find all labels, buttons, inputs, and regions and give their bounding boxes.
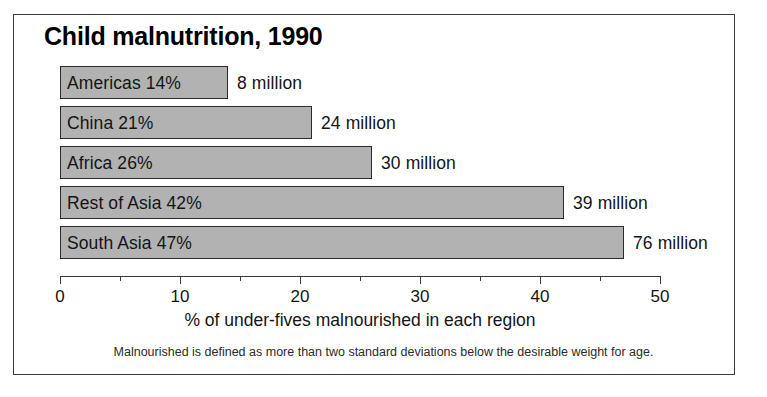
bar-value-label: 8 million <box>237 72 302 93</box>
x-axis-label: % of under-fives malnourished in each re… <box>60 310 660 331</box>
x-axis-major-tick <box>540 276 541 284</box>
x-axis-minor-tick <box>360 276 361 281</box>
x-axis-major-tick <box>300 276 301 284</box>
x-axis-tick-label: 40 <box>531 287 550 307</box>
chart-page: Child malnutrition, 1990 Americas 14%8 m… <box>0 0 767 397</box>
x-axis-minor-tick <box>600 276 601 281</box>
x-axis-major-tick <box>60 276 61 284</box>
bar-label: Americas 14% <box>67 72 181 93</box>
x-axis-tick-label: 30 <box>411 287 430 307</box>
x-axis-major-tick <box>660 276 661 284</box>
x-axis-minor-tick <box>480 276 481 281</box>
x-axis: 01020304050 <box>60 276 660 277</box>
bar-row: Rest of Asia 42%39 million <box>60 186 660 219</box>
plot-area: Americas 14%8 millionChina 21%24 million… <box>60 66 660 268</box>
x-axis-major-tick <box>180 276 181 284</box>
bar-label: South Asia 47% <box>67 232 192 253</box>
x-axis-minor-tick <box>240 276 241 281</box>
x-axis-tick-label: 10 <box>171 287 190 307</box>
x-axis-minor-tick <box>120 276 121 281</box>
x-axis-major-tick <box>420 276 421 284</box>
x-axis-tick-label: 0 <box>55 287 64 307</box>
bar-value-label: 24 million <box>321 112 396 133</box>
bar-label: Africa 26% <box>67 152 153 173</box>
page-title: Child malnutrition, 1990 <box>44 22 323 51</box>
x-axis-tick-label: 50 <box>651 287 670 307</box>
bar-value-label: 30 million <box>381 152 456 173</box>
bar-row: South Asia 47%76 million <box>60 226 660 259</box>
bar-value-label: 76 million <box>633 232 708 253</box>
bar-row: China 21%24 million <box>60 106 660 139</box>
bar-row: Africa 26%30 million <box>60 146 660 179</box>
bar-row: Americas 14%8 million <box>60 66 660 99</box>
x-axis-tick-label: 20 <box>291 287 310 307</box>
chart-footnote: Malnourished is defined as more than two… <box>0 345 767 359</box>
bar-value-label: 39 million <box>573 192 648 213</box>
bar-label: Rest of Asia 42% <box>67 192 202 213</box>
bar-label: China 21% <box>67 112 154 133</box>
